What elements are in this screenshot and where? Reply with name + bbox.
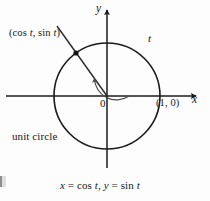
y-axis-label: y bbox=[96, 3, 101, 15]
angle-label-t: t bbox=[148, 33, 151, 44]
unit-circle-label: unit circle bbox=[12, 131, 57, 142]
unit-circle-figure: (cos t, sin t) t 0 (1, 0) x y unit circl… bbox=[0, 0, 210, 201]
x-axis-label: x bbox=[192, 94, 197, 106]
figure-caption: x = cos t, y = sin t bbox=[60, 180, 140, 191]
figure-number-mark bbox=[0, 176, 6, 187]
terminal-ray bbox=[57, 26, 107, 96]
point-marker bbox=[73, 50, 78, 55]
x-intercept-label: (1, 0) bbox=[156, 98, 179, 109]
point-coordinates-label: (cos t, sin t) bbox=[9, 28, 60, 39]
origin-label: 0 bbox=[100, 98, 106, 109]
